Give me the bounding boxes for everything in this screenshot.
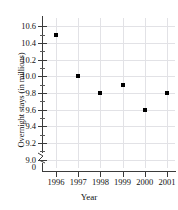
gridline-horizontal [42, 93, 175, 94]
data-point [165, 91, 169, 95]
plot-area [42, 18, 175, 168]
scatter-chart: 9.09.29.49.69.810.010.210.410.60 1996199… [0, 0, 178, 210]
x-axis-line [42, 171, 176, 172]
data-point [76, 74, 80, 78]
y-tick-minor [40, 85, 45, 86]
y-tick-minor [40, 68, 45, 69]
gridline-horizontal [42, 60, 175, 61]
y-tick-major [38, 143, 47, 144]
gridline-horizontal [42, 110, 175, 111]
y-tick-minor [40, 35, 45, 36]
y-tick-minor [40, 118, 45, 119]
y-tick-minor [40, 51, 45, 52]
axis-break-icon [36, 152, 50, 165]
gridline-vertical [78, 18, 79, 168]
y-tick-minor [40, 135, 45, 136]
x-axis-title: Year [0, 192, 178, 202]
gridline-vertical [56, 18, 57, 168]
gridline-horizontal [42, 160, 175, 161]
y-tick-minor [40, 101, 45, 102]
gridline-horizontal [42, 126, 175, 127]
data-point [98, 91, 102, 95]
data-point [121, 83, 125, 87]
y-tick-minor [40, 151, 45, 152]
data-point [143, 108, 147, 112]
y-axis-title: Overnight stays (in millions) [16, 25, 26, 175]
x-tick-label: 2001 [152, 178, 178, 187]
gridline-vertical [145, 18, 146, 168]
gridline-horizontal [42, 43, 175, 44]
gridline-vertical [123, 18, 124, 168]
y-tick-major [38, 110, 47, 111]
gridline-horizontal [42, 26, 175, 27]
data-point [54, 33, 58, 37]
y-tick-major [38, 26, 47, 27]
y-tick-major [38, 60, 47, 61]
y-tick-major [38, 160, 47, 161]
y-tick-major [38, 93, 47, 94]
gridline-horizontal [42, 143, 175, 144]
y-tick-major [38, 76, 47, 77]
gridline-horizontal [42, 76, 175, 77]
y-tick-major [38, 126, 47, 127]
y-tick-major [38, 43, 47, 44]
